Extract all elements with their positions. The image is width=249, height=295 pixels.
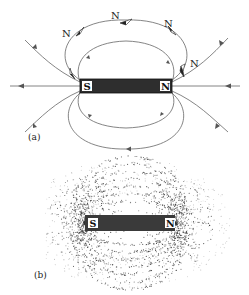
magnet-b-north-label: N — [166, 218, 175, 229]
compass-label-top: N — [111, 10, 120, 21]
panel-b-label: (b) — [34, 270, 47, 280]
magnet-b-south-label: S — [90, 218, 97, 229]
compass-label-right: N — [190, 58, 199, 69]
panel-a-label: (a) — [28, 132, 40, 142]
magnetic-field-diagram: N N N N S N (a) S N (b) — [0, 0, 249, 295]
magnet-a-north-label: N — [161, 81, 170, 92]
magnet-a-south-label: S — [84, 81, 91, 92]
compass-needle-top-left — [76, 27, 84, 36]
compass-label-top-right: N — [164, 18, 173, 29]
bar-magnet-a: S N — [80, 79, 172, 93]
compass-label-top-left: N — [62, 28, 71, 39]
bar-magnet-b: S N — [85, 215, 175, 231]
panel-a-arrows — [18, 40, 231, 152]
